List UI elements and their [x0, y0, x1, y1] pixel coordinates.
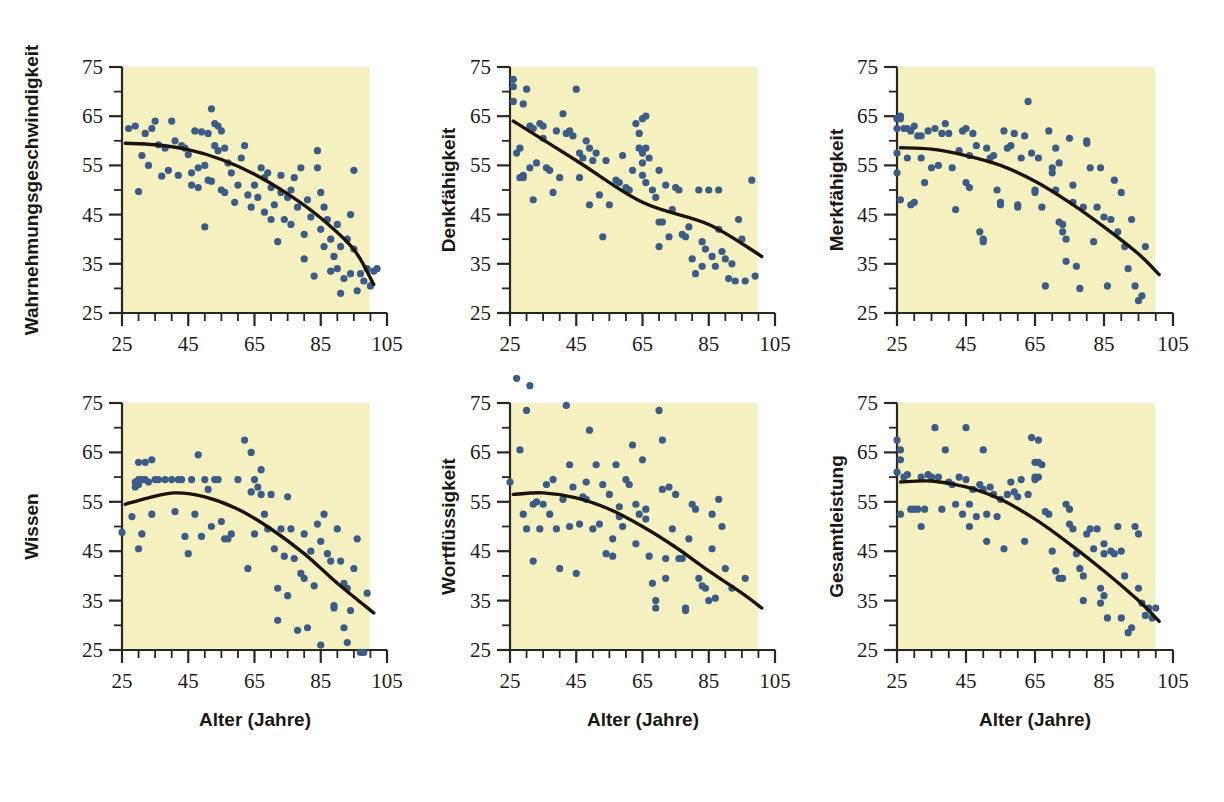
chart-panel-2: 25354555657525456585105Merkfähigkeit — [826, 55, 1189, 356]
x-axis-tick-label: 65 — [244, 332, 265, 356]
data-point — [248, 449, 255, 456]
x-axis-tick-label: 65 — [1025, 332, 1046, 356]
data-point — [559, 110, 566, 117]
data-point — [536, 525, 543, 532]
data-point — [195, 184, 202, 191]
data-point — [317, 641, 324, 648]
y-axis-tick-label: 35 — [857, 252, 878, 276]
data-point — [142, 459, 149, 466]
data-point — [1042, 282, 1049, 289]
data-point — [702, 245, 709, 252]
y-axis-tick-label: 25 — [857, 638, 878, 662]
data-point — [685, 535, 692, 542]
data-point — [639, 159, 646, 166]
x-axis-tick-label: 105 — [759, 332, 791, 356]
data-point — [251, 476, 258, 483]
x-axis-tick-label: 45 — [178, 669, 199, 693]
x-axis-tick-label: 25 — [887, 332, 908, 356]
data-point — [264, 169, 271, 176]
data-point — [962, 424, 969, 431]
data-point — [632, 501, 639, 508]
data-point — [1025, 98, 1032, 105]
data-point — [1052, 145, 1059, 152]
data-point — [1100, 550, 1107, 557]
x-axis-tick-label: 25 — [500, 669, 521, 693]
data-point — [201, 476, 208, 483]
data-point — [520, 511, 527, 518]
data-point — [616, 503, 623, 510]
y-axis-tick-label: 45 — [82, 539, 103, 563]
data-point — [165, 167, 172, 174]
data-point — [1097, 164, 1104, 171]
data-point — [523, 86, 530, 93]
data-point — [1021, 538, 1028, 545]
data-point — [931, 424, 938, 431]
data-point — [980, 238, 987, 245]
data-point — [340, 275, 347, 282]
data-point — [244, 565, 251, 572]
data-point — [1090, 545, 1097, 552]
data-point — [728, 260, 735, 267]
data-point — [191, 127, 198, 134]
data-point — [959, 511, 966, 518]
data-point — [897, 456, 904, 463]
data-point — [1121, 572, 1128, 579]
y-axis-label: Wissen — [21, 493, 42, 559]
data-point — [695, 575, 702, 582]
data-point — [576, 174, 583, 181]
x-axis-tick-label: 105 — [759, 669, 791, 693]
data-point — [546, 167, 553, 174]
data-point — [148, 511, 155, 518]
data-point — [261, 511, 268, 518]
data-point — [549, 476, 556, 483]
data-point — [155, 476, 162, 483]
data-point — [893, 469, 900, 476]
data-point — [1007, 478, 1014, 485]
data-point — [221, 189, 228, 196]
data-point — [1069, 525, 1076, 532]
data-point — [354, 287, 361, 294]
data-point — [191, 511, 198, 518]
data-point — [569, 132, 576, 139]
data-point — [195, 451, 202, 458]
data-point — [327, 557, 334, 564]
data-point — [1118, 548, 1125, 555]
data-point — [1066, 506, 1073, 513]
data-point — [208, 523, 215, 530]
data-point — [520, 100, 527, 107]
y-axis-tick-label: 35 — [82, 589, 103, 613]
data-point — [589, 157, 596, 164]
data-point — [1062, 258, 1069, 265]
data-point — [205, 486, 212, 493]
data-point — [966, 501, 973, 508]
y-axis-label: Merkfähigkeit — [826, 128, 847, 251]
data-point — [284, 592, 291, 599]
data-point — [1000, 127, 1007, 134]
data-point — [337, 243, 344, 250]
data-point — [228, 530, 235, 537]
data-point — [357, 270, 364, 277]
data-point — [1059, 575, 1066, 582]
data-point — [135, 545, 142, 552]
data-point — [506, 478, 513, 485]
data-point — [168, 476, 175, 483]
y-axis-tick-label: 55 — [470, 153, 491, 177]
data-point — [629, 167, 636, 174]
data-point — [314, 520, 321, 527]
data-point — [699, 263, 706, 270]
data-point — [712, 595, 719, 602]
data-point — [267, 491, 274, 498]
data-point — [722, 255, 729, 262]
y-axis-tick-label: 75 — [470, 55, 491, 79]
data-point — [340, 624, 347, 631]
data-point — [983, 538, 990, 545]
data-point — [205, 130, 212, 137]
data-point — [980, 446, 987, 453]
y-axis-tick-label: 25 — [857, 301, 878, 325]
data-point — [586, 201, 593, 208]
data-point — [1080, 597, 1087, 604]
x-axis-tick-label: 85 — [698, 669, 719, 693]
data-point — [274, 585, 281, 592]
data-point — [1035, 436, 1042, 443]
data-point — [1142, 612, 1149, 619]
